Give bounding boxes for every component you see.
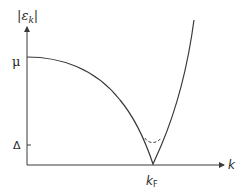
dispersion-diagram: |εk| k μ Δ kF bbox=[0, 0, 247, 195]
kf-subscript: F bbox=[153, 180, 158, 189]
x-axis-label: k bbox=[228, 158, 236, 172]
x-tick-label-kf: kF bbox=[146, 174, 158, 189]
y-axis-label-epsilon: ε bbox=[21, 8, 28, 23]
normal-state-dispersion-curve bbox=[27, 20, 194, 164]
y-axis-label-bar-right: | bbox=[34, 8, 38, 23]
y-tick-label-delta: Δ bbox=[13, 139, 21, 152]
y-tick-label-mu: μ bbox=[12, 54, 20, 69]
gapped-dispersion-curve bbox=[145, 138, 161, 143]
y-axis-label: |εk| bbox=[17, 8, 38, 25]
